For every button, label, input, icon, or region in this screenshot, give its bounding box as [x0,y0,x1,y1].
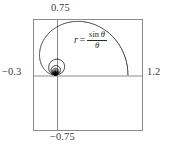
equation-sin-function: sin [89,29,99,39]
axis-label-top: 0.75 [51,2,70,13]
axis-label-bottom: −0.75 [50,131,75,142]
equation-annotation: r = sin θ θ [74,30,107,50]
equation-fraction: sin θ θ [87,30,107,50]
polar-plot-figure: 0.75 −0.75 −0.3 1.2 r = sin θ θ [0,0,173,151]
equation-numerator-theta: θ [101,29,105,39]
equation-numerator: sin θ [87,30,107,40]
equation-lhs: r [74,35,78,45]
axis-label-left: −0.3 [2,66,21,77]
axis-label-right: 1.2 [147,66,160,77]
equation-equals-sign: = [79,35,85,45]
equation-denominator: θ [93,41,101,51]
